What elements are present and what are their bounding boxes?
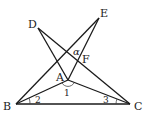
diagram-svg: D E A F B C α 1 2 3 xyxy=(0,0,147,116)
point-label-d: D xyxy=(28,18,37,31)
point-label-b: B xyxy=(3,100,11,113)
angle-label-2: 2 xyxy=(35,95,41,105)
angle-label-3: 3 xyxy=(103,95,109,105)
point-label-a: A xyxy=(55,71,65,84)
angle-label-1: 1 xyxy=(64,88,70,98)
geometry-diagram: D E A F B C α 1 2 3 xyxy=(0,0,147,116)
angle-2-arc xyxy=(29,98,30,104)
point-label-f: F xyxy=(82,53,90,66)
point-label-c: C xyxy=(134,100,142,113)
point-label-e: E xyxy=(100,7,108,20)
angle-3-arc xyxy=(116,99,117,104)
angle-label-alpha: α xyxy=(73,46,80,57)
segment-ca xyxy=(68,80,130,104)
